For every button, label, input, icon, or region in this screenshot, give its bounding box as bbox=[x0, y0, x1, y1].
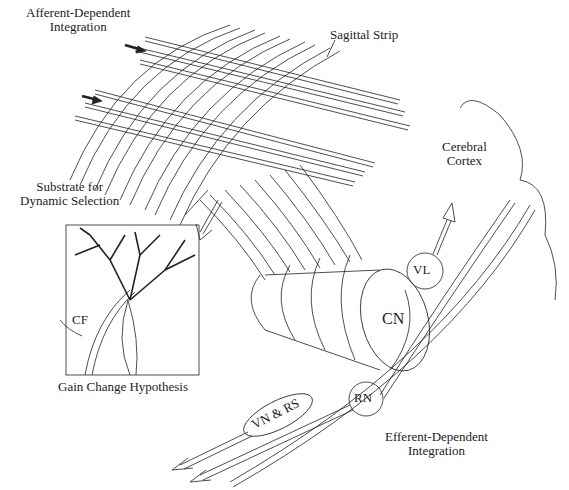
cerebral-label-line2: Cortex bbox=[442, 154, 487, 168]
efferent-label-line1: Efferent-Dependent bbox=[385, 430, 488, 444]
vl-label: VL bbox=[413, 262, 430, 278]
substrate-label: Substrate for Dynamic Selection bbox=[20, 180, 119, 208]
cn-cylinder bbox=[251, 255, 440, 379]
afferent-label-line1: Afferent-Dependent bbox=[26, 6, 130, 20]
cf-label: CF bbox=[72, 313, 88, 327]
sagittal-strip-label: Sagittal Strip bbox=[330, 28, 398, 42]
rn-label: RN bbox=[354, 390, 372, 406]
parallel-fibers-upper bbox=[135, 37, 410, 130]
substrate-label-line2: Dynamic Selection bbox=[20, 194, 119, 208]
efferent-label-line2: Integration bbox=[385, 444, 488, 458]
gain-change-label: Gain Change Hypothesis bbox=[58, 380, 188, 394]
afferent-label-line2: Integration bbox=[26, 20, 130, 34]
efferent-integration-label: Efferent-Dependent Integration bbox=[385, 430, 488, 458]
cerebral-cortex-label: Cerebral Cortex bbox=[442, 140, 487, 168]
substrate-label-line1: Substrate for bbox=[20, 180, 119, 194]
cn-label: CN bbox=[382, 310, 404, 328]
cerebral-label-line1: Cerebral bbox=[442, 140, 487, 154]
parallel-fibers-lower bbox=[75, 90, 375, 186]
afferent-integration-label: Afferent-Dependent Integration bbox=[26, 6, 130, 34]
